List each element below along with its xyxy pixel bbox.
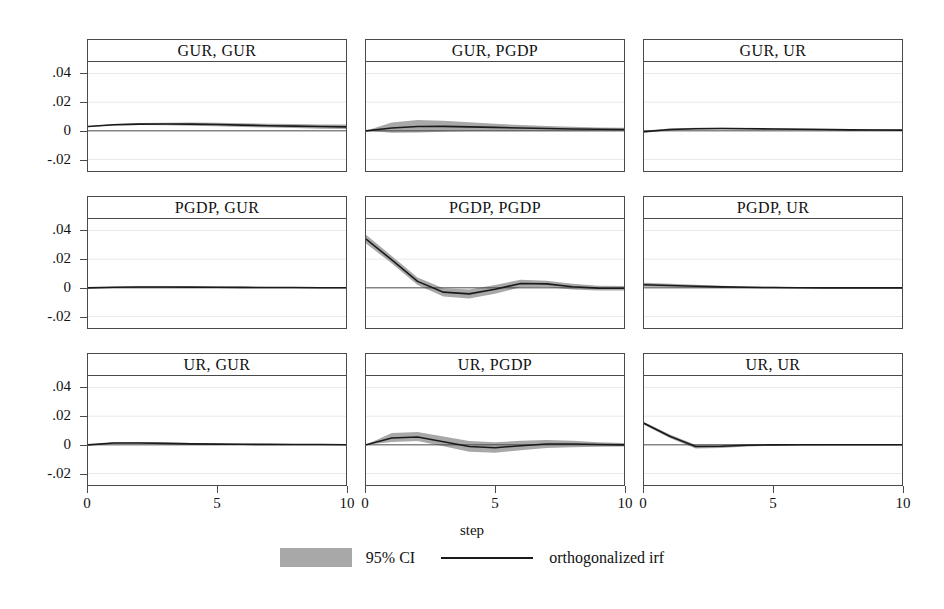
x-tick-mark [347,486,348,493]
panel-title: UR, PGDP [458,357,532,373]
y-tick-mark [80,102,87,103]
irf-panel: GUR, UR [643,39,903,172]
x-tick-mark [495,486,496,493]
x-tick-label: 0 [618,496,668,511]
y-tick-mark [80,131,87,132]
panel-plot-area [88,62,346,171]
legend-irf-label: orthogonalized irf [549,549,664,567]
panel-title: PGDP, GUR [175,200,260,216]
x-tick-mark [625,486,626,493]
x-tick-mark [365,486,366,493]
x-tick-mark [643,486,644,493]
x-tick-mark [773,486,774,493]
irf-panel: UR, PGDP [365,353,625,486]
irf-panel: PGDP, PGDP [365,196,625,329]
x-tick-mark [903,486,904,493]
panel-title: UR, GUR [184,357,251,373]
panel-plot-area [88,376,346,485]
y-tick-label: 0 [0,437,71,452]
panel-plot-area [644,62,902,171]
x-tick-mark [87,486,88,493]
x-tick-label: 0 [62,496,112,511]
y-tick-label: -.02 [0,152,71,167]
irf-panel: PGDP, GUR [87,196,347,329]
legend: 95% CI orthogonalized irf [0,548,944,567]
x-tick-label: 5 [192,496,242,511]
panel-title: UR, UR [746,357,801,373]
x-tick-label: 10 [878,496,928,511]
ci-band [366,432,624,453]
panel-title-bar: PGDP, UR [644,197,902,219]
y-tick-label: .04 [0,65,71,80]
y-tick-label: .02 [0,408,71,423]
irf-figure: GUR, GURGUR, PGDPGUR, URPGDP, GURPGDP, P… [0,0,944,609]
panel-title-bar: UR, UR [644,354,902,376]
irf-panel: UR, GUR [87,353,347,486]
y-tick-label: .04 [0,222,71,237]
y-tick-mark [80,230,87,231]
y-tick-label: 0 [0,123,71,138]
panel-plot-area [366,62,624,171]
y-tick-mark [80,288,87,289]
irf-panel: GUR, PGDP [365,39,625,172]
y-tick-label: .02 [0,94,71,109]
irf-line [88,287,346,288]
panel-title-bar: GUR, GUR [88,40,346,62]
panel-title-bar: GUR, UR [644,40,902,62]
panel-title: PGDP, UR [737,200,810,216]
x-tick-mark [217,486,218,493]
panel-title: PGDP, PGDP [449,200,541,216]
y-tick-mark [80,160,87,161]
panel-title-bar: PGDP, GUR [88,197,346,219]
panel-title: GUR, GUR [178,43,257,59]
x-axis-title: step [0,522,944,539]
panel-title-bar: PGDP, PGDP [366,197,624,219]
y-tick-label: .02 [0,251,71,266]
y-tick-mark [80,317,87,318]
y-tick-mark [80,474,87,475]
panel-title-bar: GUR, PGDP [366,40,624,62]
panel-plot-area [366,376,624,485]
irf-panel: UR, UR [643,353,903,486]
x-tick-label: 5 [748,496,798,511]
panel-plot-area [366,219,624,328]
y-tick-mark [80,445,87,446]
y-tick-mark [80,416,87,417]
panel-title-bar: UR, PGDP [366,354,624,376]
legend-ci-label: 95% CI [366,549,415,567]
panel-grid: GUR, GURGUR, PGDPGUR, URPGDP, GURPGDP, P… [0,0,944,609]
y-tick-label: 0 [0,280,71,295]
y-tick-label: .04 [0,379,71,394]
panel-plot-area [88,219,346,328]
y-tick-label: -.02 [0,466,71,481]
irf-panel: PGDP, UR [643,196,903,329]
panel-title: GUR, PGDP [452,43,538,59]
x-tick-label: 5 [470,496,520,511]
x-tick-label: 0 [340,496,390,511]
panel-plot-area [644,376,902,485]
panel-plot-area [644,219,902,328]
legend-ci-swatch [280,548,352,567]
y-tick-mark [80,387,87,388]
y-tick-label: -.02 [0,309,71,324]
panel-title-bar: UR, GUR [88,354,346,376]
y-tick-mark [80,259,87,260]
panel-title: GUR, UR [740,43,807,59]
legend-irf-line [441,557,533,559]
y-tick-mark [80,73,87,74]
irf-panel: GUR, GUR [87,39,347,172]
